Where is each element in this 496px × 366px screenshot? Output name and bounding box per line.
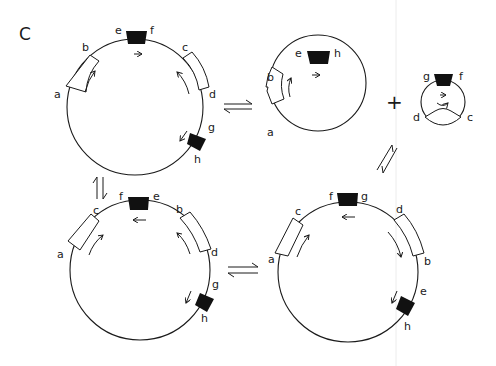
solid-block-eh <box>307 51 330 64</box>
label-d: d <box>209 88 216 101</box>
arrow-icon <box>297 235 309 257</box>
label-a: a <box>57 248 64 261</box>
label-a: a <box>54 88 61 101</box>
label-b: b <box>82 41 89 54</box>
solid-block-fg <box>337 193 358 206</box>
reverse-arrow-icon <box>382 148 397 173</box>
label-b: b <box>424 255 431 268</box>
reverse-arrow-icon <box>228 273 258 277</box>
label-g: g <box>423 70 430 83</box>
plus-operator: + <box>386 90 403 114</box>
label-e: e <box>295 47 302 60</box>
label-e: e <box>153 190 160 203</box>
label-a: a <box>268 253 275 266</box>
label-e: e <box>115 24 122 37</box>
open-block-ab <box>66 55 99 92</box>
plasmid-circle <box>270 35 366 131</box>
label-h: h <box>201 312 208 325</box>
forward-arrow-icon <box>93 177 97 199</box>
plasmid-top-middle: e h b a <box>266 35 366 139</box>
equilibrium-arrows-diagonal <box>377 145 397 173</box>
label-d: d <box>413 111 420 124</box>
label-e: e <box>420 285 427 298</box>
reverse-arrow-icon <box>103 177 107 199</box>
panel-label: C <box>19 24 31 44</box>
label-b: b <box>176 203 183 216</box>
label-a: a <box>267 126 274 139</box>
plasmid-bottom-right: c a f g d b e h <box>268 190 431 342</box>
open-block-dc <box>425 109 461 126</box>
arrow-icon <box>388 232 401 257</box>
solid-block-fe <box>128 197 149 210</box>
forward-arrow-icon <box>377 145 393 170</box>
arrow-icon <box>177 72 189 94</box>
label-f: f <box>119 190 124 203</box>
forward-arrow-icon <box>228 263 258 267</box>
open-block-cd <box>183 52 209 90</box>
label-g: g <box>361 190 368 203</box>
label-f: f <box>329 190 334 203</box>
forward-arrow-icon <box>224 100 252 104</box>
solid-block-ef <box>126 31 147 44</box>
solid-block-gh <box>187 133 206 151</box>
label-b: b <box>267 71 274 84</box>
equilibrium-arrows-vertical <box>93 177 107 199</box>
plasmid-small-excised: g f d c <box>413 70 473 125</box>
label-g: g <box>212 278 219 291</box>
label-g: g <box>208 121 215 134</box>
reverse-arrow-icon <box>224 109 252 113</box>
arrow-icon <box>180 131 187 141</box>
label-h: h <box>404 320 411 333</box>
label-d: d <box>396 203 403 216</box>
label-d: d <box>211 246 218 259</box>
label-h: h <box>194 153 201 166</box>
arrow-icon <box>177 233 190 254</box>
label-h: h <box>334 47 341 60</box>
equilibrium-arrows-horizontal-top <box>224 100 252 113</box>
label-f: f <box>459 70 464 83</box>
open-block-ca <box>275 218 303 256</box>
label-c: c <box>182 41 188 54</box>
label-c: c <box>467 111 473 124</box>
plasmid-bottom-left: c a f e b d g h <box>57 190 219 340</box>
arrow-icon <box>89 235 103 255</box>
plasmid-top-left: a b e f c d g h <box>54 24 216 175</box>
solid-block-gf <box>434 74 453 86</box>
arrow-icon <box>186 291 191 303</box>
equilibrium-arrows-horizontal-bottom <box>228 263 258 277</box>
arrow-icon <box>289 78 291 97</box>
label-f: f <box>150 24 155 37</box>
label-c: c <box>93 204 99 217</box>
label-c: c <box>295 205 301 218</box>
arrow-icon <box>437 103 448 106</box>
open-block-bd <box>180 212 211 252</box>
recombination-diagram: C a b e f c d g h <box>0 0 496 366</box>
diagram-canvas: C a b e f c d g h <box>0 0 496 366</box>
